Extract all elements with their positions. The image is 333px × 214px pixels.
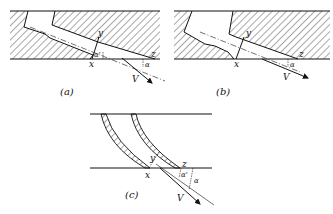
label-y-c: y (149, 153, 156, 163)
hatched-wall-left-b (174, 11, 234, 59)
caption-c: (c) (125, 189, 139, 200)
label-y-a: y (97, 28, 104, 38)
label-alpha-b: α (290, 61, 295, 69)
caption-a: (a) (60, 86, 74, 97)
label-x-a: x (89, 59, 94, 69)
label-x-c: x (145, 170, 150, 180)
label-alpha-a: α (145, 61, 150, 69)
label-velocity-a: V (132, 74, 140, 84)
diagram-canvas: y x z α' α V (a) y x z α V (b) (0, 0, 333, 214)
label-alpha-inner-c: α' (181, 171, 188, 179)
label-z-a: z (150, 49, 156, 59)
label-alpha-c: α (194, 177, 199, 185)
panel-c: y x z α' α V (c) (90, 114, 214, 205)
blade-left (101, 114, 150, 168)
label-alpha-inner-a: α' (94, 51, 101, 59)
angle-mark-outer-c (189, 168, 193, 190)
panel-b: y x z α V (b) (174, 11, 330, 97)
label-x-b: x (234, 59, 239, 69)
panel-a: y x z α' α V (a) (10, 11, 165, 97)
throat-line-xy-b (236, 37, 244, 59)
label-z-b: z (298, 49, 304, 59)
label-velocity-b: V (283, 72, 291, 82)
label-velocity-c: V (177, 193, 185, 203)
caption-b: (b) (216, 86, 230, 97)
label-z-c: z (181, 159, 187, 169)
label-y-b: y (245, 28, 252, 38)
hatched-wall-right-b (229, 11, 330, 59)
